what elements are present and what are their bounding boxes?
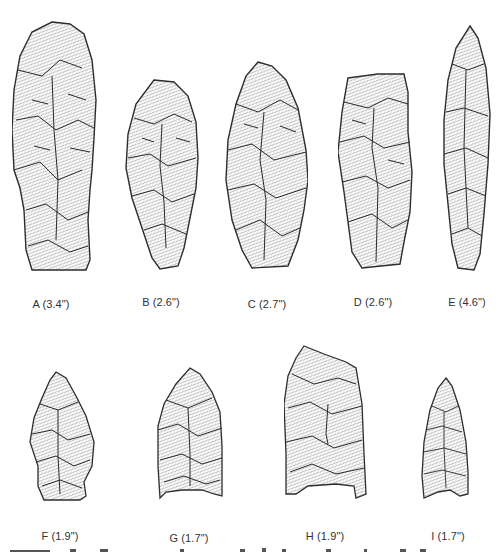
point-i-illustration xyxy=(420,376,472,502)
cropped-caption-text xyxy=(0,548,499,553)
point-e-label: E (4.6") xyxy=(448,296,486,308)
point-e-illustration xyxy=(442,24,492,272)
point-h-label: H (1.9") xyxy=(306,530,344,542)
point-c-illustration xyxy=(224,60,308,270)
point-a-illustration xyxy=(12,20,98,272)
point-g-label: G (1.7") xyxy=(170,532,209,544)
point-c-label: C (2.7") xyxy=(248,298,286,310)
point-a-label: A (3.4") xyxy=(32,298,69,310)
point-i-label: I (1.7") xyxy=(431,530,464,542)
point-d-label: D (2.6") xyxy=(354,296,392,308)
point-h-illustration xyxy=(284,344,370,502)
point-d-illustration xyxy=(338,72,414,270)
point-b-label: B (2.6") xyxy=(142,296,180,308)
point-b-illustration xyxy=(124,78,200,271)
point-g-illustration xyxy=(156,366,228,502)
projectile-points-figure: A (3.4") B (2.6") C (2.7") xyxy=(0,0,499,553)
point-f-label: F (1.9") xyxy=(41,530,78,542)
point-f-illustration xyxy=(28,370,100,502)
